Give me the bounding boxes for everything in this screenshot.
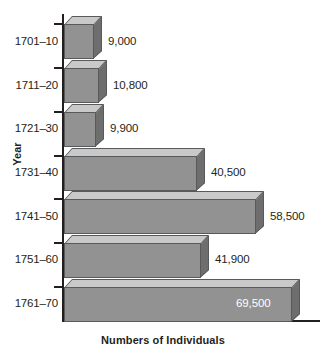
y-axis-tick (54, 242, 63, 244)
y-axis-tick (54, 198, 63, 200)
bar-front-face (64, 156, 197, 191)
bar-front-face (64, 112, 96, 147)
bar-chart: 1701–101711–201721–301731–401741–501751–… (0, 0, 326, 351)
y-axis-tick (54, 286, 63, 288)
bar-front-face (64, 24, 94, 59)
bar-value-label: 69,500 (236, 297, 271, 309)
y-axis-tick (54, 111, 63, 113)
bar (64, 191, 256, 234)
y-axis-tick-label: 1761–70 (0, 297, 58, 309)
y-axis-tick-label: 1711–20 (0, 79, 58, 91)
bar-value-label: 9,000 (108, 35, 136, 47)
bar-value-label: 10,800 (113, 79, 148, 91)
y-axis-tick-label: 1701–10 (0, 35, 58, 47)
bar-value-label: 41,900 (215, 253, 250, 265)
y-axis-tick (54, 155, 63, 157)
bar-front-face (64, 243, 201, 278)
bar-value-label: 58,500 (270, 210, 305, 222)
y-axis-tick (54, 23, 63, 25)
y-axis-tick-label: 1731–40 (0, 166, 58, 178)
x-axis-title: Numbers of Individuals (0, 334, 326, 346)
bar (64, 60, 99, 103)
y-axis-title: Year (11, 124, 23, 184)
y-axis-tick-label: 1751–60 (0, 253, 58, 265)
y-axis-tick-label: 1741–50 (0, 210, 58, 222)
bar (64, 104, 96, 147)
bar-value-label: 9,900 (110, 122, 138, 134)
bar-front-face (64, 68, 99, 103)
y-axis-tick (54, 67, 63, 69)
bar (64, 148, 197, 191)
bar (64, 235, 201, 278)
bar (64, 16, 94, 59)
bar-front-face (64, 199, 256, 234)
y-axis-tick-label: 1721–30 (0, 122, 58, 134)
bar-value-label: 40,500 (211, 166, 246, 178)
